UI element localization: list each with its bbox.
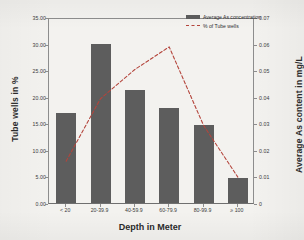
- y-axis-left-tick-label: 20.00: [14, 95, 46, 101]
- plot-area: [48, 18, 254, 204]
- x-axis-tick-label: 40-59.9: [125, 207, 143, 213]
- y-axis-right-tick-label: 0.02: [259, 148, 285, 154]
- y-axis-right-title: Average As content in mg/L: [294, 61, 304, 173]
- y-axis-right-tick-label: 0: [259, 201, 285, 207]
- y-axis-right-tick-label: 0.07: [259, 15, 285, 21]
- y-axis-left-tick-label: 0.00: [14, 201, 46, 207]
- y-axis-right-tick-label: 0.03: [259, 121, 285, 127]
- y-axis-left-tick-label: 15.00: [14, 121, 46, 127]
- x-axis-tick-label: 20-39.9: [91, 207, 109, 213]
- y-axis-left-tick-mark: [45, 204, 48, 205]
- chart-legend: Average As concentration% of Tube wells: [186, 12, 261, 30]
- y-axis-left-tick-label: 30.00: [14, 42, 46, 48]
- x-axis-title: Depth in Meter: [34, 222, 266, 232]
- as-concentration-line-series: [49, 19, 255, 205]
- legend-item-label: % of Tube wells: [203, 23, 239, 29]
- y-axis-left-tick-label: 35.00: [14, 15, 46, 21]
- y-axis-right-tick-label: 0.01: [259, 174, 285, 180]
- y-axis-right-tick-label: 0.04: [259, 95, 285, 101]
- as-concentration-polyline: [66, 47, 238, 177]
- y-axis-left-tick-label: 5.00: [14, 174, 46, 180]
- legend-item-label: Average As concentration: [203, 14, 261, 20]
- legend-item: Average As concentration: [186, 12, 261, 21]
- legend-bar-swatch-icon: [186, 15, 200, 19]
- y-axis-right-tick-label: 0.05: [259, 68, 285, 74]
- x-axis-tick-label: < 20: [60, 207, 70, 213]
- x-axis-tick-label: ≥ 100: [230, 207, 243, 213]
- legend-dashed-line-icon: [186, 25, 200, 26]
- legend-item: % of Tube wells: [186, 21, 261, 30]
- y-axis-left-tick-label: 10.00: [14, 148, 46, 154]
- y-axis-left-tick-label: 25.00: [14, 68, 46, 74]
- chart-figure: Tube wells in % Average As content in mg…: [0, 0, 304, 240]
- y-axis-left-title: Tube wells in %: [10, 61, 20, 157]
- x-axis-tick-label: 60-79.9: [159, 207, 177, 213]
- y-axis-right-tick-label: 0.06: [259, 42, 285, 48]
- x-axis-tick-label: 80-99.9: [194, 207, 212, 213]
